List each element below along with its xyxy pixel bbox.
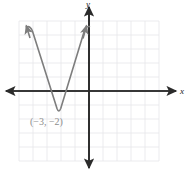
x-axis-label: x: [179, 86, 184, 96]
vertex-point-label: (−3, −2): [30, 116, 63, 128]
coordinate-plane: x y (−3, −2): [0, 0, 193, 174]
y-axis-label: y: [85, 0, 90, 9]
graph-figure: x y (−3, −2): [0, 0, 193, 174]
